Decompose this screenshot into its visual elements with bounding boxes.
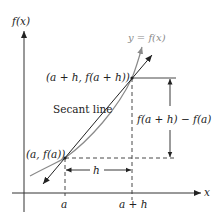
y-axis-label: f(x): [12, 16, 30, 27]
point-a-plus-h-label: (a + h, f(a + h)): [46, 72, 130, 83]
tick-label-a: a: [61, 199, 67, 210]
secant-line-label: Secant line: [53, 104, 113, 115]
point-a-label: (a, f(a)): [26, 149, 65, 160]
point-a-plus-h: [130, 76, 133, 79]
curve-label: y = f(x): [128, 33, 166, 43]
x-axis-label: x: [204, 187, 210, 198]
run-label: h: [93, 165, 100, 176]
tick-label-a-plus-h: a + h: [119, 199, 148, 210]
secant-line-diagram: f(x) x y = f(x) (a + h, f(a + h)) Secant…: [0, 0, 218, 221]
rise-label: f(a + h) − f(a): [137, 113, 211, 126]
